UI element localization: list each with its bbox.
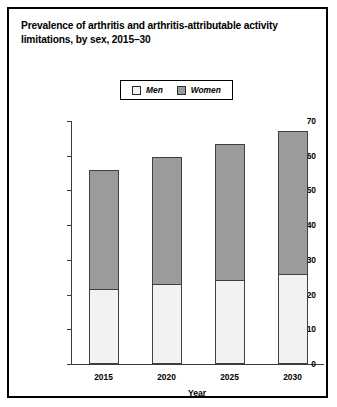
y-axis-tick-label: 0 (311, 359, 316, 369)
x-axis-tick-label: 2015 (94, 372, 113, 382)
legend-label-women: Women (191, 85, 221, 95)
y-axis-tick (67, 225, 72, 226)
x-axis-tick-label: 2025 (220, 372, 239, 382)
legend-item-women: Women (177, 85, 221, 95)
y-axis-tick (67, 121, 72, 122)
y-axis-tick (67, 156, 72, 157)
legend-label-men: Men (146, 85, 163, 95)
chart-title: Prevalence of arthritis and arthritis-at… (21, 19, 311, 47)
y-axis-tick-label: 60 (307, 151, 316, 161)
y-axis-tick (67, 190, 72, 191)
y-axis-tick-label: 20 (307, 290, 316, 300)
y-axis-tick (67, 260, 72, 261)
bar-segment-women (152, 157, 182, 284)
y-axis-tick-label: 50 (307, 185, 316, 195)
chart-legend: Men Women (120, 80, 233, 100)
y-axis-tick (67, 329, 72, 330)
y-axis-tick-label: 70 (307, 116, 316, 126)
bar-2015 (89, 170, 119, 364)
x-axis-tick-label: 2020 (157, 372, 176, 382)
x-axis-tick-label: 2030 (283, 372, 302, 382)
bar-segment-women (89, 170, 119, 289)
legend-item-men: Men (132, 85, 163, 95)
y-axis-tick (67, 364, 72, 365)
bar-segment-men (278, 274, 308, 364)
figure-frame: Prevalence of arthritis and arthritis-at… (7, 7, 328, 398)
bar-segment-men (89, 289, 119, 364)
bar-2030 (278, 131, 308, 364)
bar-segment-women (215, 144, 245, 280)
bar-segment-women (278, 131, 308, 273)
legend-swatch-icon-men (132, 86, 141, 95)
y-axis-tick-label: 30 (307, 255, 316, 265)
x-axis-label: Year (71, 388, 323, 398)
legend-swatch-icon-women (177, 86, 186, 95)
bar-segment-men (152, 284, 182, 364)
y-axis-tick-label: 10 (307, 324, 316, 334)
bar-2025 (215, 144, 245, 364)
bar-2020 (152, 157, 182, 364)
plot-area: 0102030405060702015202020252030 (71, 121, 324, 365)
y-axis-tick-label: 40 (307, 220, 316, 230)
y-axis-tick (67, 295, 72, 296)
bar-segment-men (215, 280, 245, 364)
